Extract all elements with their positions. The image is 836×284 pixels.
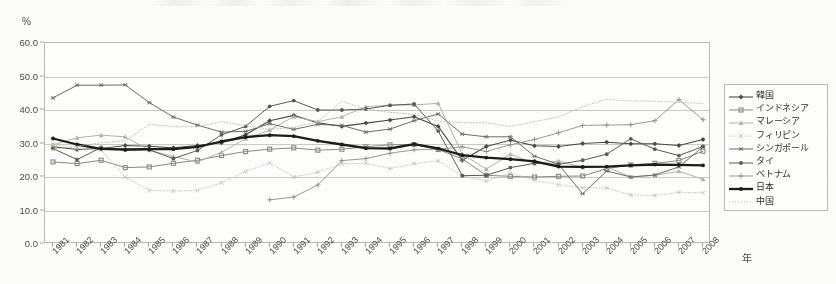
data-point (484, 166, 489, 171)
data-point (51, 137, 55, 141)
data-point (412, 142, 416, 146)
data-point (605, 165, 609, 169)
data-point (604, 169, 609, 173)
y-axis-tick-label: 60.0 (20, 37, 39, 48)
data-point (363, 156, 368, 161)
data-point (291, 195, 296, 200)
data-point (628, 141, 633, 146)
data-point (75, 158, 79, 162)
data-point (123, 143, 128, 148)
data-point (244, 170, 248, 174)
series-5 (51, 83, 706, 196)
data-point (484, 135, 489, 139)
legend-label: フィリピン (754, 128, 800, 141)
data-point (51, 147, 55, 151)
legend: 韓国インドネシアマレーシアフィリピンシンガポールタイベトナム日本中国 (724, 84, 828, 211)
data-point (739, 161, 743, 165)
y-axis-tick-label: 30.0 (20, 137, 39, 148)
legend-item-3[interactable]: マレーシア (728, 114, 825, 127)
legend-swatch (728, 141, 754, 153)
data-point (388, 103, 392, 107)
data-point (604, 140, 609, 145)
data-point (604, 122, 609, 127)
data-point (387, 151, 392, 156)
data-point (556, 130, 561, 135)
data-point (364, 146, 368, 150)
legend-item-2[interactable]: インドネシア (728, 101, 825, 114)
data-point (340, 108, 344, 112)
data-point (629, 163, 633, 167)
legend-swatch (728, 128, 754, 140)
y-axis-unit-label: % (22, 16, 31, 27)
cut-off-title-strip (150, 0, 570, 6)
data-point (244, 125, 248, 129)
legend-label: インドネシア (754, 101, 809, 114)
y-axis-tick-label: 40.0 (20, 104, 39, 115)
data-point (340, 143, 344, 147)
data-point (628, 122, 633, 127)
data-point (532, 143, 537, 148)
x-axis-title: 年 (742, 250, 752, 265)
data-point (460, 153, 464, 157)
data-point (580, 192, 585, 196)
data-point (556, 144, 561, 149)
data-point (268, 133, 272, 137)
data-point (219, 150, 224, 155)
legend-item-1[interactable]: 韓国 (728, 88, 825, 101)
legend-swatch (728, 115, 754, 127)
data-point (581, 158, 585, 162)
data-point (171, 147, 175, 151)
data-point (267, 128, 272, 133)
legend-swatch (728, 168, 754, 180)
legend-item-9[interactable]: 中国 (728, 194, 825, 207)
y-axis-tick-label: 20.0 (20, 171, 39, 182)
y-axis-tick-label: 50.0 (20, 70, 39, 81)
data-point (677, 143, 682, 148)
data-point (436, 147, 440, 151)
data-point (739, 187, 743, 191)
data-point (460, 174, 464, 178)
legend-item-5[interactable]: シンガポール (728, 141, 825, 154)
data-point (196, 145, 200, 149)
legend-item-6[interactable]: タイ (728, 154, 825, 167)
data-point (580, 141, 585, 146)
legend-item-4[interactable]: フィリピン (728, 128, 825, 141)
data-point (268, 104, 272, 108)
data-point (316, 108, 320, 112)
data-point (412, 114, 417, 119)
data-point (364, 130, 369, 134)
data-point (653, 163, 657, 167)
data-point (508, 142, 513, 147)
y-axis-tick-label: 10.0 (20, 204, 39, 215)
legend-item-7[interactable]: ベトナム (728, 167, 825, 180)
data-point (460, 144, 465, 149)
legend-label: 日本 (754, 180, 774, 193)
data-point (99, 83, 104, 87)
data-point (220, 133, 224, 137)
data-point (292, 134, 296, 138)
legend-swatch (728, 181, 754, 193)
plot-area (44, 42, 710, 243)
data-point (739, 94, 744, 99)
data-point (738, 173, 743, 178)
data-point (484, 156, 488, 160)
data-point (652, 141, 657, 146)
data-point (677, 169, 682, 174)
legend-item-8[interactable]: 日本 (728, 180, 825, 193)
data-point (509, 166, 513, 170)
data-point (147, 101, 152, 105)
data-point (509, 157, 513, 161)
data-point (388, 147, 392, 151)
legend-label: シンガポール (754, 141, 809, 154)
data-point (605, 152, 609, 156)
series-8 (51, 133, 705, 169)
data-point (412, 147, 417, 152)
legend-label: タイ (754, 154, 774, 167)
data-point (147, 188, 151, 192)
data-point (460, 132, 465, 136)
legend-label: 中国 (754, 194, 774, 207)
data-point (364, 121, 369, 126)
data-point (171, 157, 175, 161)
x-axis: 1981198219831984198519861987198819891990… (44, 243, 710, 284)
data-point (220, 181, 224, 185)
